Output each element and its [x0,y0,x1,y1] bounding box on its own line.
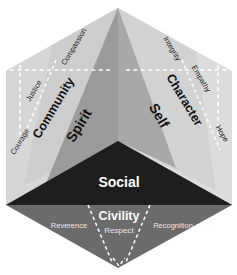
label-social: Social [98,174,139,190]
value-reverence: Reverence [51,221,87,230]
label-civility: Civility [99,209,140,223]
value-recognition: Recognition [153,221,193,230]
value-respect: Respect [104,226,134,235]
hexagon-cube-diagram: Spirit Community Compassion Justice Cour… [0,0,237,275]
diagram-canvas: Spirit Community Compassion Justice Cour… [0,0,237,275]
